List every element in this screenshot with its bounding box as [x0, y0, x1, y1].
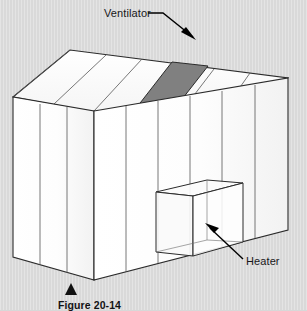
caption-triangle-marker	[65, 283, 77, 295]
ventilator-label: Ventilator	[104, 8, 151, 19]
gable-end-wall	[13, 97, 94, 280]
heater-unit	[156, 180, 243, 256]
heater-label: Heater	[246, 256, 280, 267]
figure-caption: Figure 20-14	[58, 300, 121, 311]
ventilator-leader	[148, 13, 196, 40]
